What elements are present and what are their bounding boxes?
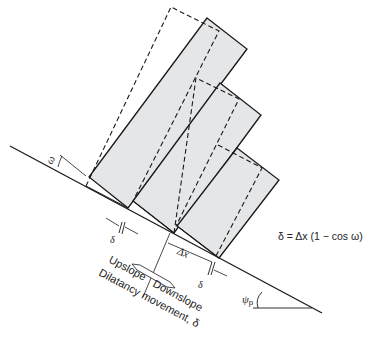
delta-left-tick-1 bbox=[119, 222, 122, 233]
delta-right-arrow bbox=[214, 270, 227, 276]
omega-angle-arc bbox=[58, 156, 62, 167]
psi-p-label: ψp bbox=[242, 293, 254, 307]
delta-left-arrow-1 bbox=[106, 218, 119, 226]
delta-right-label: δ bbox=[198, 279, 203, 290]
omega-reference-line bbox=[60, 155, 86, 176]
delta-left-tick-2 bbox=[122, 222, 125, 234]
psi-angle-arc bbox=[257, 292, 262, 308]
omega-label: ω bbox=[43, 153, 57, 166]
diagram-canvas: ω δ Δx δ Upslope Downslope Dilatancy mov… bbox=[0, 0, 377, 347]
delta-left-label: δ bbox=[110, 234, 115, 245]
formula-label: δ = Δx (1 − cos ω) bbox=[278, 230, 363, 242]
delta-x-label: Δx bbox=[175, 244, 191, 260]
delta-left-arrow-2 bbox=[125, 227, 138, 234]
